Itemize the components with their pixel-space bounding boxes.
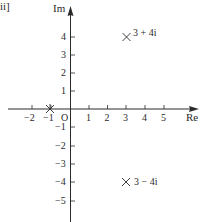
- y-tick-label: −4: [55, 177, 66, 187]
- x-tick-label: −2: [24, 113, 35, 123]
- y-tick-label: −5: [55, 196, 66, 206]
- x-tick-label: −1: [43, 113, 54, 123]
- y-tick-label: 1: [61, 86, 66, 96]
- x-tick-label: 4: [142, 113, 147, 123]
- y-tick-label: 3: [61, 50, 66, 60]
- y-tick-label: −1: [55, 122, 66, 132]
- point-marker-3-minus-4i: [122, 178, 130, 186]
- imaginary-axis-arrow-icon: [68, 6, 74, 16]
- real-axis-label: Re: [186, 112, 198, 123]
- point-label-3-minus-4i: 3 − 4i: [134, 177, 157, 187]
- y-tick-label: 4: [61, 32, 66, 42]
- y-tick-label: 2: [61, 68, 66, 78]
- x-tick-label: 3: [123, 113, 128, 123]
- point-marker-3-plus-4i: [123, 33, 131, 41]
- argand-diagram: [0, 0, 202, 222]
- x-tick-label: 2: [105, 113, 110, 123]
- y-tick-label: −2: [55, 141, 66, 151]
- x-tick-label: 1: [86, 113, 91, 123]
- imaginary-axis-label: Im: [53, 3, 65, 14]
- x-tick-label: 5: [161, 113, 166, 123]
- point-label-3-plus-4i: 3 + 4i: [133, 28, 156, 38]
- y-ticks: [71, 37, 76, 201]
- y-tick-label: −3: [55, 159, 66, 169]
- figure-label: ii]: [0, 1, 10, 12]
